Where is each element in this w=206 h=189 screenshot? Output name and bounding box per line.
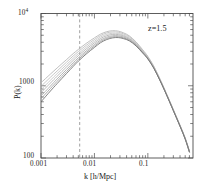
y-axis-ticks: [41, 14, 193, 159]
data-series-line: [41, 36, 189, 152]
data-series-line: [41, 32, 189, 151]
y-axis-title: P(k): [13, 85, 22, 99]
y-tick-exponent: 4: [26, 7, 29, 13]
x-axis-title: k [h/Mpc]: [84, 172, 116, 181]
y-tick-label-100: 100: [23, 152, 34, 160]
y-tick-label-10000: 104: [18, 9, 29, 17]
figure-container: 104 1000 100 0.001 0.01 0.1 k [h/Mpc] P(…: [0, 0, 206, 189]
x-tick-label-0.1: 0.1: [139, 160, 149, 168]
data-series-line: [41, 33, 189, 151]
data-series-group: [41, 31, 189, 152]
data-series-line: [41, 31, 189, 151]
plot-frame: [41, 14, 193, 159]
x-tick-label-0.001: 0.001: [30, 160, 47, 168]
x-tick-label-0.01: 0.01: [83, 160, 96, 168]
redshift-annotation: z=1.5: [148, 24, 167, 33]
data-series-line: [41, 34, 189, 151]
